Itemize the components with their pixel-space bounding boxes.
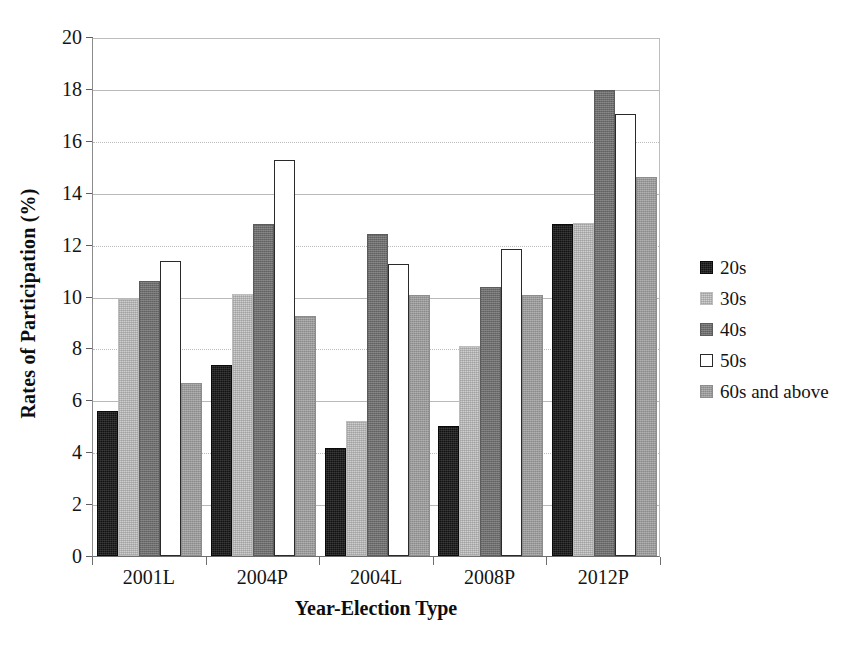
bar-2012P-30s bbox=[573, 223, 594, 556]
bar-2008P-50s bbox=[501, 249, 522, 557]
x-tick-mark bbox=[92, 557, 93, 565]
legend-item-50s: 50s bbox=[700, 345, 860, 376]
y-tick-label: 0 bbox=[22, 546, 82, 566]
x-tick-mark bbox=[433, 557, 434, 565]
bar-2004P-50s bbox=[274, 160, 295, 556]
legend-swatch-icon bbox=[700, 354, 713, 367]
bar-2012P-60s-and-above bbox=[636, 177, 657, 556]
bar-2001L-20s bbox=[97, 411, 118, 556]
x-tick-mark bbox=[319, 557, 320, 565]
legend-item-20s: 20s bbox=[700, 252, 860, 283]
bar-2008P-20s bbox=[438, 426, 459, 556]
x-tick-mark bbox=[206, 557, 207, 565]
legend-swatch-icon bbox=[700, 323, 713, 336]
bar-2004P-20s bbox=[211, 365, 232, 556]
legend-label: 50s bbox=[720, 351, 746, 370]
bar-2004L-20s bbox=[325, 448, 346, 556]
legend-swatch-icon bbox=[700, 261, 713, 274]
x-axis-title: Year-Election Type bbox=[92, 597, 660, 620]
bar-2008P-40s bbox=[480, 287, 501, 556]
bar-2004P-30s bbox=[232, 294, 253, 556]
legend-label: 20s bbox=[720, 258, 746, 277]
bar-2004P-60s-and-above bbox=[295, 316, 316, 556]
bar-2001L-60s-and-above bbox=[181, 383, 202, 556]
bar-2012P-20s bbox=[552, 224, 573, 556]
y-axis: 02468101214161820 bbox=[0, 0, 92, 600]
bar-2004L-30s bbox=[346, 421, 367, 556]
gridline bbox=[93, 194, 659, 195]
bar-2012P-50s bbox=[615, 114, 636, 556]
bar-chart-figure: 02468101214161820 Rates of Participation… bbox=[0, 0, 861, 652]
y-tick-label: 20 bbox=[22, 27, 82, 47]
legend: 20s30s40s50s60s and above bbox=[700, 252, 860, 407]
x-tick-label-2004P: 2004P bbox=[202, 566, 322, 589]
gridline bbox=[93, 90, 659, 91]
x-tick-mark bbox=[660, 557, 661, 565]
plot-area bbox=[92, 38, 660, 557]
gridline bbox=[93, 142, 659, 143]
legend-label: 40s bbox=[720, 320, 746, 339]
bar-2004L-50s bbox=[388, 264, 409, 556]
bar-2012P-40s bbox=[594, 90, 615, 556]
x-tick-label-2001L: 2001L bbox=[89, 566, 209, 589]
legend-item-60s-and-above: 60s and above bbox=[700, 376, 860, 407]
bar-2004L-40s bbox=[367, 234, 388, 556]
legend-item-30s: 30s bbox=[700, 283, 860, 314]
x-tick-label-2012P: 2012P bbox=[543, 566, 663, 589]
y-axis-title: Rates of Participation (%) bbox=[17, 94, 40, 514]
legend-swatch-icon bbox=[700, 292, 713, 305]
x-tick-label-2008P: 2008P bbox=[430, 566, 550, 589]
bar-2001L-30s bbox=[118, 299, 139, 556]
bar-2001L-40s bbox=[139, 281, 160, 556]
bar-2004P-40s bbox=[253, 224, 274, 556]
legend-label: 60s and above bbox=[720, 382, 829, 401]
bar-2008P-60s-and-above bbox=[522, 295, 543, 556]
legend-item-40s: 40s bbox=[700, 314, 860, 345]
bar-2001L-50s bbox=[160, 261, 181, 556]
x-tick-label-2004L: 2004L bbox=[316, 566, 436, 589]
bar-2008P-30s bbox=[459, 346, 480, 556]
bar-2004L-60s-and-above bbox=[409, 295, 430, 556]
legend-swatch-icon bbox=[700, 385, 713, 398]
x-tick-mark bbox=[546, 557, 547, 565]
legend-label: 30s bbox=[720, 289, 746, 308]
